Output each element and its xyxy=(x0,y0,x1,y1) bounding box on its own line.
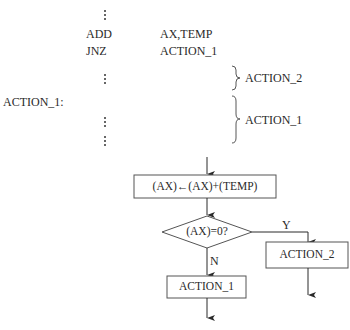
process-label: (AX)←(AX)+(TEMP) xyxy=(134,180,276,192)
yes-label: Y xyxy=(282,218,291,232)
brace-action-2 xyxy=(232,66,240,90)
action-1-label: ACTION_1 xyxy=(167,280,246,292)
arrow-yes xyxy=(252,232,308,242)
brace-action-1 xyxy=(232,96,240,143)
decision-label: (AX)=0? xyxy=(162,225,252,237)
no-label: N xyxy=(210,254,219,268)
action-2-label: ACTION_2 xyxy=(266,248,348,260)
